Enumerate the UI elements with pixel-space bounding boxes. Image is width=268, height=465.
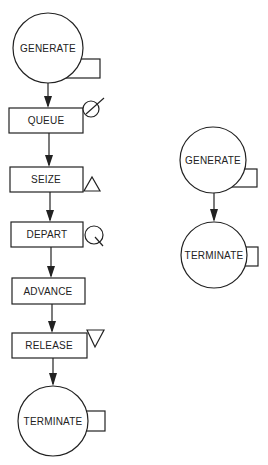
queue-symbol-icon xyxy=(83,98,104,117)
facility-triangle-icon xyxy=(84,177,100,191)
release-label: RELEASE xyxy=(25,340,73,351)
block-generate-left: GENERATE xyxy=(13,13,100,83)
arrowhead-icon xyxy=(210,209,218,222)
block-depart: DEPART xyxy=(11,222,103,247)
seize-label: SEIZE xyxy=(31,174,61,185)
terminate-label: TERMINATE xyxy=(24,416,83,427)
block-terminate-left: TERMINATE xyxy=(18,386,105,456)
arrow-generate-queue xyxy=(44,83,52,108)
block-advance: ADVANCE xyxy=(12,278,85,304)
queue-label: QUEUE xyxy=(28,115,65,126)
generate-label: GENERATE xyxy=(20,43,76,54)
block-queue: QUEUE xyxy=(9,98,104,133)
arrowhead-icon xyxy=(44,96,52,108)
arrowhead-icon xyxy=(46,210,54,222)
arrowhead-icon xyxy=(48,321,56,333)
advance-label: ADVANCE xyxy=(23,286,72,297)
arrowhead-icon xyxy=(49,373,57,386)
terminate-label: TERMINATE xyxy=(185,250,244,261)
block-terminate-right: TERMINATE xyxy=(181,222,258,288)
block-release: RELEASE xyxy=(12,330,104,358)
block-seize: SEIZE xyxy=(10,167,100,192)
gpss-diagram: GENERATE QUEUE SEIZE DEPART ADVANC xyxy=(0,0,268,465)
arrowhead-icon xyxy=(45,155,53,167)
arrowhead-icon xyxy=(47,266,55,278)
block-generate-right: GENERATE xyxy=(180,127,257,193)
depart-symbol-icon xyxy=(85,226,103,246)
diagram-svg: GENERATE QUEUE SEIZE DEPART ADVANC xyxy=(0,0,268,465)
release-triangle-icon xyxy=(87,330,104,347)
depart-label: DEPART xyxy=(27,229,68,240)
generate-label: GENERATE xyxy=(185,155,241,166)
